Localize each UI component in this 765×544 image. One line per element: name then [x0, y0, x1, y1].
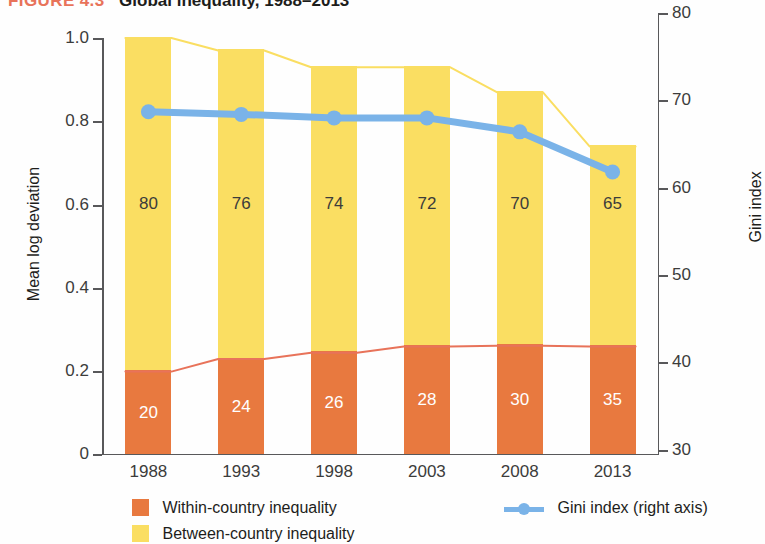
right-tick-3: [659, 188, 668, 190]
bar-label-between: 70: [497, 194, 543, 214]
left-tick-1: [93, 38, 102, 40]
left-axis-label-3: 0.6: [65, 195, 89, 215]
bar-label-between: 80: [125, 194, 171, 214]
bar-label-within: 20: [125, 403, 171, 423]
bar-label-between: 76: [218, 194, 264, 214]
left-axis-label-5: 0.2: [65, 361, 89, 381]
x-axis-tick-label: 1988: [125, 462, 171, 482]
bar-label-within: 28: [404, 390, 450, 410]
left-axis-label-1: 1.0: [65, 28, 89, 48]
x-axis-tick-label: 2008: [497, 462, 543, 482]
right-tick-2: [659, 100, 668, 102]
bar-group: 24761993: [218, 49, 264, 453]
left-tick-2: [93, 121, 102, 123]
legend-label-within: Within-country inequality: [162, 499, 336, 516]
bar-segment-between: 72: [404, 66, 450, 345]
legend: Within-country inequality Between-countr…: [132, 497, 692, 543]
left-tick-5: [93, 371, 102, 373]
bar-segment-within: 26: [311, 351, 357, 453]
right-axis-label-3: 60: [672, 178, 691, 198]
between-country-swatch-icon: [132, 525, 149, 542]
bar-label-within: 24: [218, 397, 264, 417]
bar-segment-between: 76: [218, 49, 264, 358]
right-axis-label-1: 80: [672, 3, 691, 23]
bar-label-between: 74: [311, 194, 357, 214]
bar-label-within: 35: [590, 390, 636, 410]
bottom-axis-line: [102, 454, 659, 456]
legend-label-gini: Gini index (right axis): [557, 499, 707, 516]
legend-item-gini: Gini index (right axis): [504, 499, 708, 517]
x-axis-tick-label: 2013: [590, 462, 636, 482]
bar-group: 30702008: [497, 91, 543, 454]
within-country-swatch-icon: [132, 499, 149, 516]
left-axis-title: Mean log deviation: [25, 167, 43, 301]
bar-group: 26741998: [311, 66, 357, 454]
series-overlay: [102, 13, 659, 455]
right-axis-label-2: 70: [672, 90, 691, 110]
left-axis-label-2: 0.8: [65, 111, 89, 131]
bar-label-between: 72: [404, 194, 450, 214]
bar-group: 35652013: [590, 145, 636, 454]
within-country-top-connector: [125, 346, 635, 372]
left-tick-4: [93, 288, 102, 290]
plot-area: 1.0 0.8 0.6 0.4 0.2 0 80 70 60 50 40 30 …: [102, 13, 659, 455]
bar-segment-within: 28: [404, 345, 450, 453]
bar-label-within: 26: [311, 393, 357, 413]
bar-segment-within: 30: [497, 344, 543, 453]
right-tick-4: [659, 275, 668, 277]
page-title: Global inequality, 1988–2013: [119, 0, 349, 10]
figure-global-inequality: FIGURE 4.3 Global inequality, 1988–2013 …: [0, 0, 765, 544]
bar-segment-between: 74: [311, 66, 357, 352]
bar-group: 28722003: [404, 66, 450, 454]
right-tick-6: [659, 450, 668, 452]
bar-label-within: 30: [497, 390, 543, 410]
left-axis-label-4: 0.4: [65, 278, 89, 298]
legend-item-between: Between-country inequality: [132, 525, 355, 543]
legend-item-within: Within-country inequality: [132, 499, 337, 517]
bar-segment-between: 70: [497, 91, 543, 345]
right-axis-line: [658, 13, 660, 455]
bar-segment-between: 65: [590, 145, 636, 345]
bar-segment-between: 80: [125, 37, 171, 371]
right-axis-title: Gini index: [747, 226, 765, 243]
right-axis-label-6: 30: [672, 440, 691, 460]
right-tick-1: [659, 13, 668, 15]
right-tick-5: [659, 362, 668, 364]
bar-group: 20801988: [125, 37, 171, 454]
bar-segment-within: 20: [125, 370, 171, 453]
right-axis-label-4: 50: [672, 265, 691, 285]
x-axis-tick-label: 1998: [311, 462, 357, 482]
left-axis-label-6: 0: [80, 444, 89, 464]
gini-line-marker-icon: [504, 500, 544, 517]
left-tick-3: [93, 205, 102, 207]
bar-segment-within: 35: [590, 345, 636, 453]
figure-number: FIGURE 4.3: [8, 0, 105, 10]
bar-segment-within: 24: [218, 358, 264, 454]
left-tick-6: [93, 454, 102, 456]
between-country-top-connector: [125, 38, 635, 146]
bar-label-between: 65: [590, 194, 636, 214]
right-axis-label-5: 40: [672, 352, 691, 372]
left-axis-line: [102, 38, 104, 455]
x-axis-tick-label: 2003: [404, 462, 450, 482]
legend-label-between: Between-country inequality: [162, 525, 354, 542]
figure-title-row: FIGURE 4.3 Global inequality, 1988–2013: [8, 0, 608, 13]
x-axis-tick-label: 1993: [218, 462, 264, 482]
